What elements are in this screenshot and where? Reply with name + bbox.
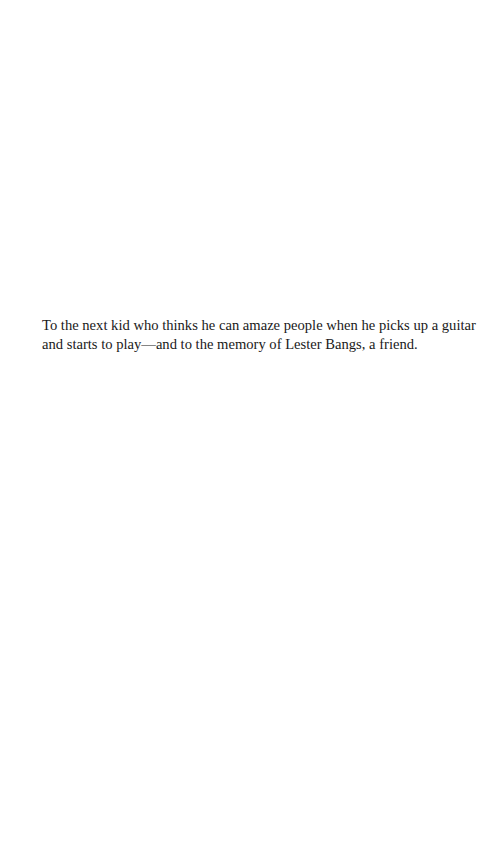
book-page: To the next kid who thinks he can amaze … — [0, 0, 482, 862]
dedication-text: To the next kid who thinks he can amaze … — [42, 316, 454, 354]
dedication-line-2: and starts to play—and to the memory of … — [42, 335, 454, 354]
dedication-line-1: To the next kid who thinks he can amaze … — [42, 316, 454, 335]
